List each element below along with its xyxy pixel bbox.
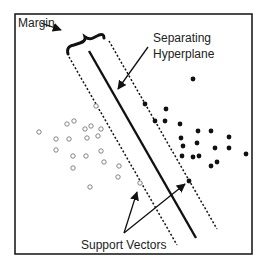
hollow-point: [37, 130, 41, 134]
filled-point: [196, 129, 201, 134]
filled-point: [191, 155, 196, 160]
hollow-point: [89, 124, 93, 128]
filled-point: [227, 146, 232, 151]
hollow-point: [102, 160, 106, 164]
hollow-point: [65, 122, 69, 126]
margin-brace-icon: [68, 34, 104, 54]
separating-hyperplane: [89, 51, 196, 238]
hollow-point: [116, 175, 120, 179]
hollow-point: [71, 154, 75, 158]
hollow-point: [71, 166, 75, 170]
hollow-point: [138, 181, 142, 185]
filled-point: [209, 129, 214, 134]
margin-boundary-left: [69, 57, 177, 245]
filled-point: [227, 135, 232, 140]
filled-point: [244, 152, 249, 157]
hollow-point: [94, 104, 98, 108]
support-vector-arrow-positive: [124, 184, 185, 233]
hollow-point: [67, 137, 71, 141]
margin-boundary-right: [109, 41, 217, 229]
filled-point: [178, 122, 183, 127]
hollow-point: [83, 127, 87, 131]
class-positive-points: [143, 77, 249, 184]
support-vector-arrow-negative: [124, 192, 137, 233]
filled-point: [179, 136, 184, 141]
hollow-point: [117, 164, 121, 168]
hyperplane-label-line2: Hyperplane: [153, 47, 215, 61]
filled-point: [191, 77, 196, 82]
hollow-point: [84, 154, 88, 158]
filled-point: [213, 146, 218, 151]
filled-point: [197, 154, 202, 159]
filled-point: [180, 154, 185, 159]
margin-label: Margin: [18, 16, 55, 30]
hollow-point: [99, 127, 103, 131]
hollow-point: [99, 149, 103, 153]
filled-point: [164, 107, 169, 112]
hyperplane-label-line1: Separating: [153, 31, 211, 45]
filled-point: [153, 119, 158, 124]
filled-point: [181, 144, 186, 149]
filled-point: [143, 102, 148, 107]
svm-diagram: Margin Separating Hyperplane Support Vec…: [0, 0, 268, 268]
hollow-point: [72, 119, 76, 123]
filled-point: [195, 141, 200, 146]
plot-border: [15, 14, 252, 254]
hollow-point: [96, 134, 100, 138]
filled-point: [209, 164, 214, 169]
filled-point: [187, 179, 192, 184]
support-vectors-label: Support Vectors: [81, 238, 166, 252]
hollow-point: [54, 137, 58, 141]
hollow-point: [54, 148, 58, 152]
filled-point: [215, 160, 220, 165]
hollow-point: [88, 185, 92, 189]
filled-point: [163, 119, 168, 124]
hollow-point: [85, 136, 89, 140]
